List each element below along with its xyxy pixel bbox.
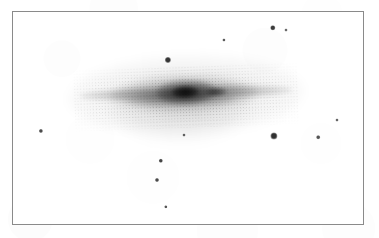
plate-border-frame (12, 11, 364, 225)
star-upper-centre-faint (222, 38, 225, 41)
sky-canvas (13, 12, 363, 224)
star-right-edge-faint (336, 119, 339, 122)
galaxy-dust-lane (125, 94, 237, 107)
star-lower-right-faint (316, 135, 320, 139)
figure-root (0, 0, 379, 238)
star-far-left (39, 129, 43, 133)
star-above-nucleus (165, 57, 171, 63)
galaxy-grain-texture (72, 62, 299, 132)
star-below-nucleus-faint (183, 134, 186, 137)
star-bottom-centre (164, 205, 167, 208)
star-lower-centre-lower (155, 178, 159, 182)
star-upper-right-faint (285, 29, 288, 32)
galaxy-thin-disk (80, 83, 292, 104)
star-upper-right-bright (270, 25, 275, 30)
galaxy-knot-east (205, 87, 227, 97)
galaxy-lower-halo-plume (110, 74, 251, 144)
star-lower-centre-upper (159, 159, 163, 163)
galaxy-thick-disk (110, 76, 259, 112)
star-lower-right-bright (270, 132, 277, 139)
galaxy-bulge (156, 79, 217, 105)
emulsion-noise-texture (13, 12, 363, 224)
galaxy-outer-halo (67, 51, 306, 139)
galaxy-nucleus (172, 86, 198, 99)
